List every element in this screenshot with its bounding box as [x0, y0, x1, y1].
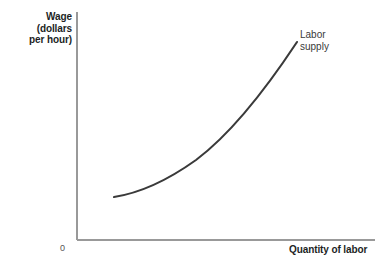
- y-axis-title: Wage (dollars per hour): [0, 11, 72, 46]
- series-label-labor-supply: Labor supply: [300, 29, 329, 52]
- x-axis-title: Quantity of labor: [289, 244, 367, 256]
- chart-figure: Wage (dollars per hour) Labor supply Qua…: [0, 0, 385, 264]
- origin-label: 0: [60, 243, 65, 255]
- labor-supply-curve: [114, 42, 297, 197]
